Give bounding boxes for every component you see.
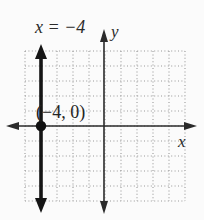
vertical-line-down-arrow-icon bbox=[35, 198, 47, 213]
x-axis-label: x bbox=[177, 132, 186, 151]
y-axis-down-arrow-icon bbox=[100, 201, 108, 214]
graph-canvas: x = −4 (−4, 0) y x bbox=[0, 0, 204, 220]
vertical-line-up-arrow-icon bbox=[35, 44, 47, 59]
y-axis-label: y bbox=[109, 22, 119, 41]
point-coordinates-label: (−4, 0) bbox=[36, 102, 85, 123]
y-axis-up-arrow-icon bbox=[100, 29, 108, 42]
x-axis-left-arrow-icon bbox=[6, 122, 19, 130]
x-axis-right-arrow-icon bbox=[184, 122, 197, 130]
x-axis bbox=[6, 122, 197, 130]
coordinate-plane-figure: x = −4 (−4, 0) y x bbox=[0, 0, 204, 220]
line-equation-label: x = −4 bbox=[34, 17, 85, 37]
point-marker bbox=[36, 121, 46, 131]
